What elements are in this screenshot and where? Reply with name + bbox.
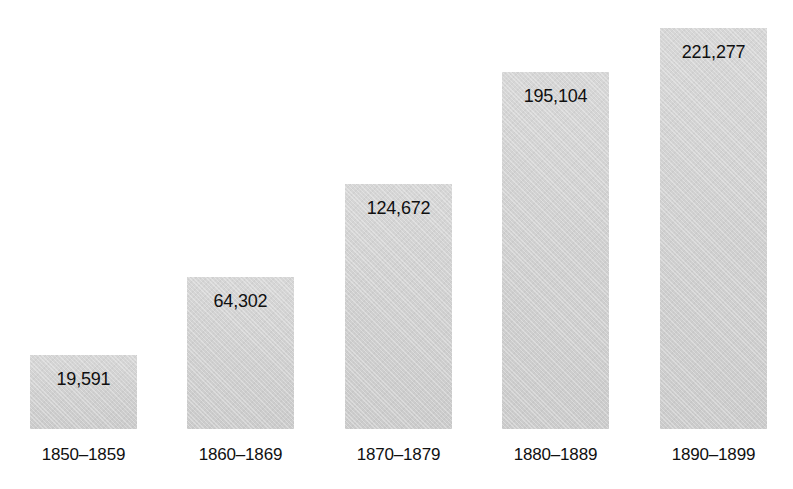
plot-area: 19,591 64,302 124,672 195,104 221,277 18… xyxy=(0,0,793,489)
bar-chart: 19,591 64,302 124,672 195,104 221,277 18… xyxy=(0,0,793,489)
bar-value-label-1850-1859: 19,591 xyxy=(30,369,137,389)
bar-value-label-1890-1899: 221,277 xyxy=(660,42,767,62)
bar-column-1860-1869: 64,302 xyxy=(187,277,294,429)
bar-rect-1880-1889 xyxy=(502,72,609,429)
x-axis-label-1890-1899: 1890–1899 xyxy=(660,445,767,465)
bar-column-1850-1859: 19,591 xyxy=(30,355,137,429)
bar-column-1870-1879: 124,672 xyxy=(345,184,452,429)
bar-column-1880-1889: 195,104 xyxy=(502,72,609,429)
x-axis-label-1870-1879: 1870–1879 xyxy=(345,445,452,465)
bar-column-1890-1899: 221,277 xyxy=(660,28,767,429)
bar-rect-1890-1899 xyxy=(660,28,767,429)
bar-rect-1850-1859 xyxy=(30,355,137,429)
x-axis-label-1880-1889: 1880–1889 xyxy=(502,445,609,465)
bar-value-label-1870-1879: 124,672 xyxy=(345,198,452,218)
bar-value-label-1880-1889: 195,104 xyxy=(502,86,609,106)
bar-value-label-1860-1869: 64,302 xyxy=(187,291,294,311)
x-axis-label-1860-1869: 1860–1869 xyxy=(187,445,294,465)
bar-rect-1870-1879 xyxy=(345,184,452,429)
x-axis-label-1850-1859: 1850–1859 xyxy=(30,445,137,465)
